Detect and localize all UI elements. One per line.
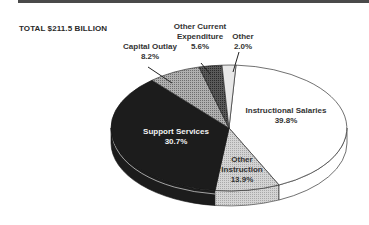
label-other-instruction: Other Instruction 13.9%: [218, 155, 266, 185]
label-instructional-salaries-value: 39.8%: [238, 116, 334, 126]
label-capital-outlay-value: 8.2%: [117, 52, 183, 62]
label-other-current-expenditure: Other Current Expenditure 5.6%: [166, 22, 234, 52]
label-other: Other 2.0%: [228, 32, 258, 52]
label-support-services-name: Support Services: [138, 127, 214, 137]
label-support-services-value: 30.7%: [138, 137, 214, 147]
label-instructional-salaries: Instructional Salaries 39.8%: [238, 106, 334, 126]
label-other-name: Other: [228, 32, 258, 42]
label-other-instruction-value: 13.9%: [218, 175, 266, 185]
label-other-instruction-name2: Instruction: [218, 165, 266, 175]
label-other-value: 2.0%: [228, 42, 258, 52]
label-other-current-name1: Other Current: [166, 22, 234, 32]
label-instructional-salaries-name: Instructional Salaries: [238, 106, 334, 116]
label-other-instruction-name1: Other: [218, 155, 266, 165]
label-support-services: Support Services 30.7%: [138, 127, 214, 147]
label-other-current-value: 5.6%: [166, 42, 234, 52]
label-other-current-name2: Expenditure: [166, 32, 234, 42]
